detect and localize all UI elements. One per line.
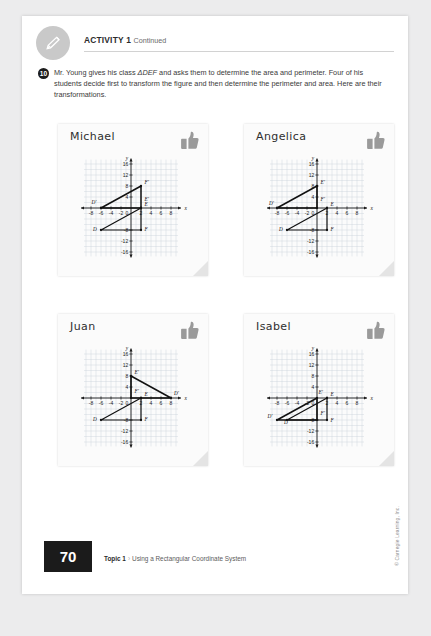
card-corner-fold <box>193 261 208 276</box>
vertex-point <box>316 419 318 421</box>
student-name: Isabel <box>256 320 291 333</box>
vertex-point <box>276 207 278 209</box>
svg-text:-6: -6 <box>285 210 290 216</box>
vertex-label: F' <box>320 410 326 416</box>
vertex-label: E <box>144 391 149 397</box>
svg-text:4: 4 <box>125 384 128 390</box>
copyright-notice: © Carnegie Learning, Inc. <box>395 506 400 566</box>
activity-continued-label: Continued <box>134 36 167 45</box>
svg-text:-16: -16 <box>307 439 314 445</box>
vertex-label: F' <box>134 388 140 394</box>
student-card[interactable]: Isabel-8-6-4-224681612840-8-12-16xyDEFD'… <box>244 314 394 466</box>
y-axis-label: y <box>311 155 315 161</box>
vertex-label: E' <box>318 389 324 395</box>
vertex-label: F' <box>144 179 150 185</box>
x-axis-label: x <box>370 205 374 211</box>
svg-text:-4: -4 <box>295 400 300 406</box>
svg-text:-12: -12 <box>121 428 128 434</box>
svg-text:-12: -12 <box>307 428 314 434</box>
vertex-point <box>286 229 288 231</box>
svg-text:-8: -8 <box>275 210 280 216</box>
vertex-label: D' <box>268 200 275 206</box>
student-name: Angelica <box>256 130 306 143</box>
student-name: Michael <box>70 130 115 143</box>
y-axis-label: y <box>125 345 129 351</box>
vertex-point <box>100 419 102 421</box>
student-card[interactable]: Juan-8-6-4-224681612840-8-12-16xyDEFD'E'… <box>58 314 208 466</box>
svg-text:8: 8 <box>311 373 314 379</box>
vertex-point <box>130 375 132 377</box>
student-name: Juan <box>70 320 96 333</box>
page-number-box: 70 <box>44 541 92 572</box>
svg-text:-6: -6 <box>285 400 290 406</box>
svg-text:-8: -8 <box>89 210 94 216</box>
vertex-point <box>326 419 328 421</box>
svg-text:-8: -8 <box>275 400 280 406</box>
svg-text:8: 8 <box>356 400 359 406</box>
coordinate-plane: -8-6-4-224681612840-8-12-16xyDEFD'E'F' <box>257 148 381 268</box>
svg-text:-16: -16 <box>307 249 314 255</box>
vertex-label: D <box>92 226 97 232</box>
vertex-label: D <box>278 226 283 232</box>
svg-text:4: 4 <box>150 210 153 216</box>
svg-text:12: 12 <box>309 172 315 178</box>
vertex-point <box>140 229 142 231</box>
activity-header: ACTIVITY 1 Continued <box>36 26 394 62</box>
vertex-label: D' <box>91 199 98 205</box>
student-card[interactable]: Michael-8-6-4-224681612840-8-12-16xyDEFD… <box>58 124 208 276</box>
svg-text:-12: -12 <box>121 238 128 244</box>
page-sheet: ACTIVITY 1 Continued 10 Mr. Young gives … <box>22 16 408 594</box>
vertex-label: D' <box>267 413 274 419</box>
page-number: 70 <box>44 541 92 572</box>
footer-section-label: Using a Rectangular Coordinate System <box>132 555 246 562</box>
svg-text:-2: -2 <box>305 210 310 216</box>
svg-text:-16: -16 <box>121 249 128 255</box>
question-text-part1: Mr. Young gives his class <box>54 68 138 77</box>
coordinate-plane: -8-6-4-224681612840-8-12-16xyDEFD'E'F' <box>71 148 195 268</box>
vertex-label: E' <box>144 196 150 202</box>
svg-text:-6: -6 <box>99 400 104 406</box>
footer-breadcrumb: Topic 1›Using a Rectangular Coordinate S… <box>104 555 246 562</box>
footer-topic-label: Topic 1 <box>104 555 126 562</box>
vertex-point <box>316 207 318 209</box>
svg-text:-2: -2 <box>119 400 124 406</box>
svg-text:-4: -4 <box>109 400 114 406</box>
svg-text:8: 8 <box>170 400 173 406</box>
svg-text:16: 16 <box>123 351 129 357</box>
question-number-badge: 10 <box>38 68 49 79</box>
svg-text:12: 12 <box>309 362 315 368</box>
y-axis-label: y <box>311 345 315 351</box>
vertex-point <box>140 419 142 421</box>
svg-text:-8: -8 <box>89 400 94 406</box>
student-card[interactable]: Angelica-8-6-4-224681612840-8-12-16xyDEF… <box>244 124 394 276</box>
svg-text:6: 6 <box>346 400 349 406</box>
vertex-label: E <box>330 391 335 397</box>
x-axis-label: x <box>184 395 188 401</box>
vertex-point <box>100 207 102 209</box>
vertex-point <box>326 207 328 209</box>
vertex-label: D <box>92 416 97 422</box>
activity-title: ACTIVITY 1 Continued <box>84 35 166 45</box>
vertex-point <box>170 397 172 399</box>
vertex-label: E' <box>320 179 326 185</box>
svg-text:4: 4 <box>336 400 339 406</box>
svg-text:4: 4 <box>150 400 153 406</box>
svg-text:6: 6 <box>346 210 349 216</box>
vertex-label: D' <box>173 390 180 396</box>
card-corner-fold <box>379 261 394 276</box>
pencil-icon <box>36 26 70 60</box>
activity-label: ACTIVITY 1 <box>84 35 131 45</box>
svg-text:-4: -4 <box>295 210 300 216</box>
vertex-label: F' <box>320 196 326 202</box>
svg-text:-2: -2 <box>119 210 124 216</box>
x-axis-label: x <box>184 205 188 211</box>
vertex-point <box>316 185 318 187</box>
vertex-label: F <box>144 226 149 232</box>
svg-text:8: 8 <box>125 373 128 379</box>
vertex-point <box>140 207 142 209</box>
card-corner-fold <box>193 451 208 466</box>
page-root: ACTIVITY 1 Continued 10 Mr. Young gives … <box>0 0 431 636</box>
coordinate-plane: -8-6-4-224681612840-8-12-16xyDEFD'E'F' <box>257 338 381 458</box>
svg-text:6: 6 <box>160 210 163 216</box>
x-axis-label: x <box>370 395 374 401</box>
